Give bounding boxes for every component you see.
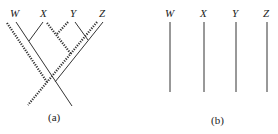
taxon-label-z: Z	[99, 7, 106, 19]
figure: W X Y Z (a) W X Y Z (b)	[0, 0, 278, 134]
taxon-label-w: W	[10, 7, 20, 19]
taxon-label-x: X	[39, 7, 48, 19]
taxon-label-y: Y	[70, 7, 78, 19]
taxon-label-z: Z	[263, 7, 270, 19]
gene-tree-branch-y	[75, 22, 88, 40]
gene-tree-branch-x	[29, 22, 43, 41]
species-tree-branch-y	[57, 22, 68, 34]
taxon-label-x: X	[199, 7, 208, 19]
species-tree-branch-w	[7, 23, 47, 82]
species-tree-branch-x	[47, 23, 71, 54]
gene-tree-branch-w	[16, 22, 72, 106]
taxon-label-y: Y	[232, 7, 240, 19]
caption-b: (b)	[211, 114, 224, 127]
panel-a: W X Y Z (a)	[7, 7, 106, 124]
caption-a: (a)	[48, 111, 61, 124]
panel-b: W X Y Z (b)	[165, 7, 270, 127]
taxon-label-w: W	[165, 7, 175, 19]
gene-tree-branch-z	[55, 22, 103, 82]
